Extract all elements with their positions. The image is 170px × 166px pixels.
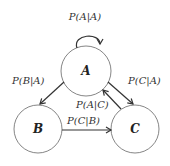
markov-diagram: A B C P(A|A) P(B|A) P(C|A) P(A|C) P(C|B) xyxy=(0,0,170,166)
svg-text:A: A xyxy=(80,64,90,78)
node-a: A xyxy=(61,46,111,96)
node-c: C xyxy=(111,105,159,153)
edge-a-a: P(A|A) xyxy=(68,11,101,48)
edge-a-b: P(B|A) xyxy=(11,75,64,104)
svg-text:P(A|C): P(A|C) xyxy=(75,99,109,111)
svg-text:P(A|A): P(A|A) xyxy=(68,11,101,23)
edge-b-c: P(C|B) xyxy=(62,115,111,130)
node-b: B xyxy=(14,105,62,153)
diagram-canvas: A B C P(A|A) P(B|A) P(C|A) P(A|C) P(C|B) xyxy=(0,0,170,166)
svg-text:P(B|A): P(B|A) xyxy=(11,75,45,87)
svg-text:P(C|A): P(C|A) xyxy=(127,75,161,87)
svg-text:B: B xyxy=(32,122,43,136)
edge-a-c: P(C|A) xyxy=(108,75,161,104)
svg-text:C: C xyxy=(130,122,140,136)
svg-text:P(C|B): P(C|B) xyxy=(66,115,100,127)
